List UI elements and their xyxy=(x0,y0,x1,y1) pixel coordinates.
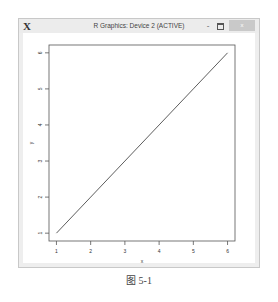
x-tick-label: 3 xyxy=(123,248,126,254)
x-axis-label: x xyxy=(141,258,144,263)
y-tick-label: 3 xyxy=(37,159,43,162)
line-plot: 123456123456xy xyxy=(23,33,255,263)
r-graphics-window: X R Graphics: Device 2 (ACTIVE) - x 1234… xyxy=(18,18,260,268)
minimize-button[interactable]: - xyxy=(203,21,213,31)
y-tick-label: 4 xyxy=(37,123,43,126)
maximize-button[interactable] xyxy=(215,21,225,31)
y-tick-label: 6 xyxy=(37,51,43,54)
y-tick-label: 1 xyxy=(37,232,43,235)
x-tick-label: 4 xyxy=(158,248,161,254)
close-button[interactable]: x xyxy=(229,20,255,31)
y-tick-label: 2 xyxy=(37,195,43,198)
x-tick-label: 1 xyxy=(55,248,58,254)
x-tick-label: 6 xyxy=(226,248,229,254)
data-line xyxy=(56,53,227,233)
y-tick-label: 5 xyxy=(37,87,43,90)
x-tick-label: 2 xyxy=(89,248,92,254)
x-tick-label: 5 xyxy=(192,248,195,254)
plot-canvas: 123456123456xy xyxy=(23,33,255,263)
figure-caption: 图 5-1 xyxy=(0,272,278,287)
y-axis-label: y xyxy=(28,141,34,144)
title-bar[interactable]: X R Graphics: Device 2 (ACTIVE) - x xyxy=(19,19,259,33)
